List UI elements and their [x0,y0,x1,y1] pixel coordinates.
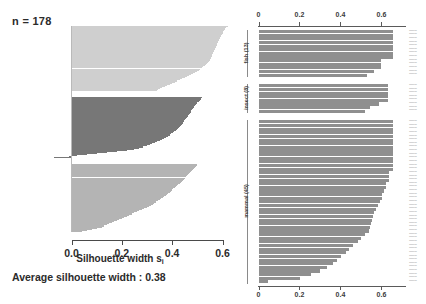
silhouette-plot-area [0,26,240,232]
group-bar [259,41,393,44]
group-bar [259,280,268,283]
group-axis-tick-label: 0.4 [336,11,346,18]
group-bar [259,45,393,48]
group-bar [259,193,383,196]
group-bar [259,175,389,178]
group-bar [259,149,393,152]
group-bar [259,84,388,87]
group-bar [259,229,370,232]
group-bar [259,244,353,247]
group-bar [259,37,393,40]
group-bar [259,30,393,33]
group-axis-tick-label: 0.6 [377,291,387,298]
group-bar [259,164,393,167]
group-bar [259,55,393,58]
group-bar [259,182,386,185]
group-bar [259,34,393,37]
group-bar [259,120,393,123]
group-axis-tick [259,22,260,26]
group-label: mammal (45) [243,181,249,221]
group-axis-tick-label: 0.4 [336,291,346,298]
group-bar [259,131,393,134]
group-axis-tick [381,286,382,290]
group-bar [259,186,386,189]
group-bar [259,204,379,207]
silhouette-cluster-2 [0,97,240,158]
silhouette-figure: n = 178 0.00.20.40.6 Silhouette width si… [0,0,426,304]
group-bar [259,222,372,225]
group-label: insect (8) [243,78,249,118]
group-bar [259,110,366,113]
group-bar [259,66,382,69]
group-bar [259,277,301,280]
group-bar [259,255,342,258]
group-axis-tick [299,22,300,26]
group-axis-tick-label: 0.2 [295,11,305,18]
group-axis-tick [299,286,300,290]
group-bar [259,171,389,174]
group-bar [259,48,393,51]
group-axis-tick-label: 0 [257,291,261,298]
group-bar [259,211,375,214]
group-bar [259,259,338,262]
group-bar [259,128,393,131]
group-bar [259,189,385,192]
group-bar [259,139,393,142]
group-bar [259,142,393,145]
group-bar [259,200,381,203]
group-bar [259,179,389,182]
group-axis-tick [381,22,382,26]
group-bar [259,52,393,55]
x-axis-tick [122,240,123,245]
group-bar [259,219,373,222]
group-axis-tick-label: 0.2 [295,291,305,298]
group-bar [259,266,328,269]
group-bar [259,146,393,149]
group-bar [259,251,346,254]
group-bar [259,106,371,109]
group-axis-tick [340,286,341,290]
silhouette-bar [54,157,72,158]
silhouette-bar [72,90,158,91]
silhouette-panel: n = 178 0.00.20.40.6 Silhouette width si… [0,0,240,304]
x-axis-tick [72,240,73,245]
group-bar [259,248,349,251]
group-bar [259,88,388,91]
group-axis-tick-label: 0 [257,11,261,18]
x-axis-tick [172,240,173,245]
group-bar [259,157,393,160]
group-bar [259,95,388,98]
group-bar [259,168,393,171]
group-bar [259,99,388,102]
group-bar [259,124,393,127]
group-bar [259,233,366,236]
group-bar [259,153,393,156]
bar-row-label: ——— [409,73,417,76]
group-bar [259,74,368,77]
group-bar [259,269,320,272]
x-axis-label-text: Silhouette width s [76,253,162,264]
group-axis-tick-label: 0.6 [377,11,387,18]
group-bar [259,70,375,73]
group-bar [259,262,334,265]
group-bar [259,208,377,211]
x-axis-line [72,240,223,241]
group-bar [259,59,382,62]
group-bar-panel: ———————————————————————————————————————f… [240,0,426,304]
x-axis-label: Silhouette width si [0,253,240,265]
x-axis-label-subscript: i [162,258,164,265]
group-bar [259,197,383,200]
silhouette-bar [72,231,82,232]
x-axis-tick [223,240,224,245]
group-bar [259,240,358,243]
group-bar [259,226,371,229]
silhouette-bar [72,155,77,156]
group-bar [259,92,388,95]
group-bar [259,102,380,105]
silhouette-cluster-1 [0,26,240,91]
group-axis-tick [340,22,341,26]
group-bar [259,63,382,66]
group-bar [259,215,374,218]
group-label: fish (13) [243,33,249,73]
silhouette-cluster-3 [0,164,240,232]
